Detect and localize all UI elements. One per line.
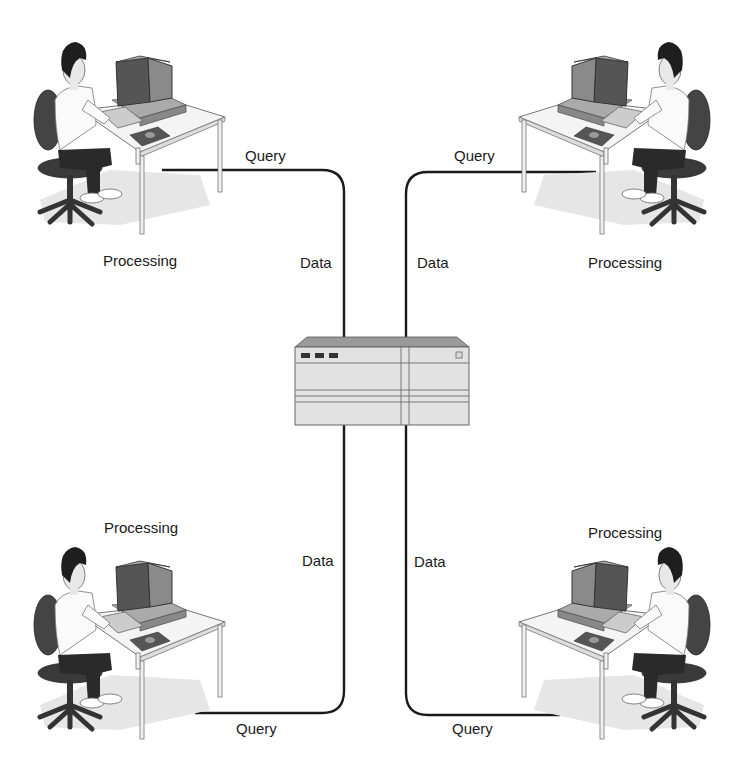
processing-label-top-left: Processing [103,252,177,269]
processing-label-bottom-left: Processing [104,519,178,536]
data-label-bottom-left: Data [302,552,334,569]
query-label-top-right: Query [454,147,495,164]
query-label-bottom-right: Query [452,720,493,737]
workstation-bottom-right [0,0,744,770]
data-label-top-left: Data [300,254,332,271]
processing-label-top-right: Processing [588,254,662,271]
data-label-bottom-right: Data [414,553,446,570]
client-server-diagram: Processing Query Data Processing Query D… [0,0,744,770]
query-label-top-left: Query [245,147,286,164]
query-label-bottom-left: Query [236,720,277,737]
processing-label-bottom-right: Processing [588,524,662,541]
data-label-top-right: Data [417,254,449,271]
